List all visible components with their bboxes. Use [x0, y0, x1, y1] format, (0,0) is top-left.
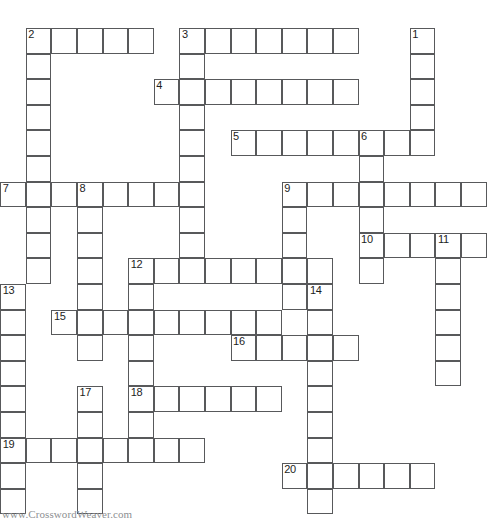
crossword-cell[interactable] — [256, 258, 282, 284]
crossword-cell[interactable] — [179, 156, 205, 182]
crossword-cell[interactable] — [154, 438, 180, 464]
crossword-cell[interactable] — [307, 335, 333, 361]
crossword-cell-numbered-3[interactable]: 3 — [179, 28, 205, 54]
crossword-cell[interactable] — [410, 79, 436, 105]
crossword-cell[interactable] — [282, 233, 308, 259]
crossword-cell[interactable] — [154, 258, 180, 284]
crossword-cell-numbered-13[interactable]: 13 — [0, 284, 26, 310]
crossword-cell[interactable] — [103, 28, 129, 54]
crossword-cell[interactable] — [282, 130, 308, 156]
crossword-cell[interactable] — [77, 207, 103, 233]
crossword-cell[interactable] — [256, 28, 282, 54]
crossword-cell[interactable] — [359, 156, 385, 182]
crossword-cell[interactable] — [77, 28, 103, 54]
crossword-cell[interactable] — [333, 130, 359, 156]
crossword-cell[interactable] — [231, 28, 257, 54]
crossword-cell[interactable] — [179, 79, 205, 105]
crossword-cell-numbered-19[interactable]: 19 — [0, 438, 26, 464]
crossword-cell[interactable] — [154, 182, 180, 208]
crossword-cell-numbered-9[interactable]: 9 — [282, 182, 308, 208]
crossword-cell[interactable] — [307, 28, 333, 54]
crossword-cell-numbered-17[interactable]: 17 — [77, 386, 103, 412]
crossword-cell[interactable] — [179, 182, 205, 208]
crossword-cell[interactable] — [128, 361, 154, 387]
crossword-cell[interactable] — [205, 79, 231, 105]
crossword-cell-numbered-20[interactable]: 20 — [282, 463, 308, 489]
crossword-cell[interactable] — [282, 79, 308, 105]
crossword-cell-numbered-16[interactable]: 16 — [231, 335, 257, 361]
crossword-cell[interactable] — [256, 335, 282, 361]
crossword-cell[interactable] — [256, 79, 282, 105]
crossword-cell[interactable] — [128, 28, 154, 54]
crossword-cell[interactable] — [410, 105, 436, 131]
crossword-cell-numbered-14[interactable]: 14 — [307, 284, 333, 310]
crossword-cell[interactable] — [359, 182, 385, 208]
crossword-cell[interactable] — [77, 284, 103, 310]
crossword-cell[interactable] — [26, 207, 52, 233]
crossword-cell[interactable] — [179, 130, 205, 156]
crossword-cell[interactable] — [307, 386, 333, 412]
crossword-cell[interactable] — [282, 207, 308, 233]
crossword-cell[interactable] — [231, 386, 257, 412]
crossword-cell[interactable] — [205, 386, 231, 412]
crossword-cell[interactable] — [384, 182, 410, 208]
crossword-cell[interactable] — [410, 130, 436, 156]
crossword-cell[interactable] — [333, 182, 359, 208]
crossword-cell[interactable] — [0, 386, 26, 412]
crossword-cell[interactable] — [128, 182, 154, 208]
crossword-cell[interactable] — [435, 258, 461, 284]
crossword-cell[interactable] — [26, 258, 52, 284]
crossword-cell[interactable] — [307, 79, 333, 105]
crossword-cell[interactable] — [333, 79, 359, 105]
crossword-grid[interactable]: 2314567891011121314151617181920 — [0, 0, 494, 519]
crossword-cell[interactable] — [128, 310, 154, 336]
crossword-cell[interactable] — [410, 54, 436, 80]
crossword-cell[interactable] — [0, 361, 26, 387]
crossword-cell[interactable] — [77, 335, 103, 361]
crossword-cell[interactable] — [435, 335, 461, 361]
crossword-cell[interactable] — [384, 463, 410, 489]
crossword-cell[interactable] — [384, 233, 410, 259]
crossword-cell[interactable] — [359, 258, 385, 284]
crossword-cell[interactable] — [461, 182, 487, 208]
crossword-cell[interactable] — [231, 310, 257, 336]
crossword-cell[interactable] — [256, 310, 282, 336]
crossword-cell[interactable] — [179, 310, 205, 336]
crossword-cell-numbered-4[interactable]: 4 — [154, 79, 180, 105]
crossword-cell[interactable] — [77, 463, 103, 489]
crossword-cell-numbered-15[interactable]: 15 — [51, 310, 77, 336]
crossword-cell-numbered-2[interactable]: 2 — [26, 28, 52, 54]
crossword-cell[interactable] — [103, 438, 129, 464]
crossword-cell[interactable] — [333, 463, 359, 489]
crossword-cell[interactable] — [77, 438, 103, 464]
crossword-cell[interactable] — [205, 258, 231, 284]
crossword-cell[interactable] — [307, 182, 333, 208]
crossword-cell[interactable] — [359, 463, 385, 489]
crossword-cell[interactable] — [179, 207, 205, 233]
crossword-cell[interactable] — [282, 284, 308, 310]
crossword-cell[interactable] — [307, 258, 333, 284]
crossword-cell[interactable] — [103, 182, 129, 208]
crossword-cell-numbered-7[interactable]: 7 — [0, 182, 26, 208]
crossword-cell[interactable] — [333, 28, 359, 54]
crossword-cell[interactable] — [435, 182, 461, 208]
crossword-cell[interactable] — [282, 335, 308, 361]
crossword-cell[interactable] — [231, 258, 257, 284]
crossword-cell-numbered-8[interactable]: 8 — [77, 182, 103, 208]
crossword-cell[interactable] — [0, 310, 26, 336]
crossword-cell[interactable] — [128, 438, 154, 464]
crossword-cell[interactable] — [128, 412, 154, 438]
crossword-cell[interactable] — [307, 310, 333, 336]
crossword-cell-numbered-6[interactable]: 6 — [359, 130, 385, 156]
crossword-cell[interactable] — [282, 28, 308, 54]
crossword-cell[interactable] — [205, 310, 231, 336]
crossword-cell[interactable] — [26, 438, 52, 464]
crossword-cell[interactable] — [179, 258, 205, 284]
crossword-cell-numbered-5[interactable]: 5 — [231, 130, 257, 156]
crossword-cell[interactable] — [205, 28, 231, 54]
crossword-cell[interactable] — [231, 79, 257, 105]
crossword-cell[interactable] — [26, 156, 52, 182]
crossword-cell[interactable] — [0, 412, 26, 438]
crossword-cell[interactable] — [179, 233, 205, 259]
crossword-cell[interactable] — [410, 182, 436, 208]
